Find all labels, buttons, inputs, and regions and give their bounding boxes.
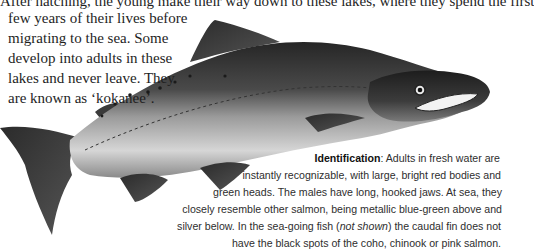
- intro-text-line: migrating to the sea. Some: [8, 30, 168, 47]
- identification-italic: not shown: [340, 220, 388, 232]
- intro-text-line: develop into adults in these: [8, 50, 172, 67]
- intro-text-line: lakes and never leave. They: [8, 70, 175, 87]
- identification-line: instantly recognizable, with large, brig…: [242, 169, 501, 181]
- identification-line: green heads. The males have long, hooked…: [213, 186, 502, 198]
- identification-line: have the black spots of the coho, chinoo…: [232, 237, 501, 249]
- identification-heading: Identification: [315, 152, 381, 164]
- anal-fin: [120, 174, 168, 202]
- intro-text-line: are known as ‘kokanee’.: [8, 90, 155, 107]
- identification-text: : Adults in fresh water are: [380, 152, 500, 164]
- intro-text-line: After hatching, the young make their way…: [0, 0, 534, 10]
- identification-line: silver below. In the sea-going fish (not…: [177, 220, 501, 232]
- identification-text: ) the caudal fin does not: [388, 220, 501, 232]
- caudal-fin: [0, 127, 80, 235]
- identification-line: Identification: Adults in fresh water ar…: [315, 152, 500, 164]
- intro-text-line: few years of their lives before: [8, 10, 188, 27]
- identification-line: closely resemble other salmon, being met…: [182, 203, 502, 215]
- identification-text: silver below. In the sea-going fish (: [177, 220, 340, 232]
